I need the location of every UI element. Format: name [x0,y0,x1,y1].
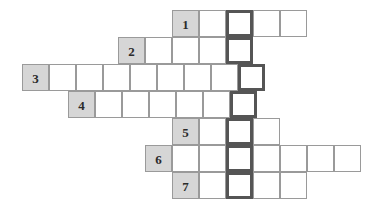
clue-number-cell-1[interactable]: 1 [172,10,199,37]
clue-number-label: 5 [173,125,198,138]
letter-cell[interactable] [253,172,280,199]
puzzle-row-3: 3 [22,64,265,91]
key-column-cell-row-3[interactable] [238,64,265,91]
letter-cell[interactable] [184,64,211,91]
letter-cell[interactable] [49,64,76,91]
clue-number-cell-5[interactable]: 5 [172,118,199,145]
letter-cell[interactable] [130,64,157,91]
letter-cell[interactable] [122,91,149,118]
letter-cell[interactable] [199,37,226,64]
clue-number-cell-4[interactable]: 4 [68,91,95,118]
key-column-cell-row-5[interactable] [226,118,253,145]
crossword-puzzle-grid: 1234567 [0,0,369,205]
letter-cell[interactable] [76,64,103,91]
puzzle-row-7: 7 [172,172,307,199]
clue-number-cell-6[interactable]: 6 [145,145,172,172]
letter-cell[interactable] [157,64,184,91]
letter-cell[interactable] [334,145,361,172]
clue-number-label: 2 [119,44,144,57]
letter-cell[interactable] [280,145,307,172]
letter-cell[interactable] [280,10,307,37]
letter-cell[interactable] [199,118,226,145]
puzzle-row-5: 5 [172,118,280,145]
clue-number-label: 4 [69,98,94,111]
clue-number-cell-7[interactable]: 7 [172,172,199,199]
letter-cell[interactable] [253,145,280,172]
letter-cell[interactable] [203,91,230,118]
letter-cell[interactable] [211,64,238,91]
key-column-cell-row-6[interactable] [226,145,253,172]
letter-cell[interactable] [103,64,130,91]
clue-number-label: 3 [23,71,48,84]
letter-cell[interactable] [199,10,226,37]
clue-number-cell-3[interactable]: 3 [22,64,49,91]
clue-number-label: 1 [173,17,198,30]
letter-cell[interactable] [172,145,199,172]
letter-cell[interactable] [280,172,307,199]
letter-cell[interactable] [172,37,199,64]
key-column-cell-row-1[interactable] [226,10,253,37]
puzzle-row-6: 6 [145,145,361,172]
letter-cell[interactable] [253,118,280,145]
puzzle-row-4: 4 [68,91,257,118]
clue-number-label: 7 [173,179,198,192]
letter-cell[interactable] [199,172,226,199]
clue-number-label: 6 [146,152,171,165]
letter-cell[interactable] [253,10,280,37]
letter-cell[interactable] [307,145,334,172]
letter-cell[interactable] [176,91,203,118]
puzzle-row-2: 2 [118,37,253,64]
puzzle-row-1: 1 [172,10,307,37]
letter-cell[interactable] [95,91,122,118]
key-column-cell-row-7[interactable] [226,172,253,199]
letter-cell[interactable] [149,91,176,118]
letter-cell[interactable] [199,145,226,172]
key-column-cell-row-4[interactable] [230,91,257,118]
letter-cell[interactable] [145,37,172,64]
key-column-cell-row-2[interactable] [226,37,253,64]
clue-number-cell-2[interactable]: 2 [118,37,145,64]
